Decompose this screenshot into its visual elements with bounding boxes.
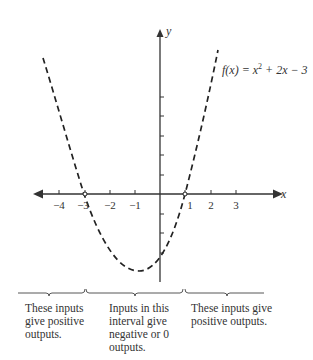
note-middle: Inputs in this interval give negative or… — [109, 302, 169, 354]
x-axis-left-arrow-icon — [33, 190, 43, 199]
note-line: These inputs — [25, 302, 84, 315]
note-line: outputs. — [25, 328, 84, 341]
note-line: These inputs give — [191, 302, 272, 315]
note-line: positive outputs. — [191, 315, 272, 328]
function-label-suffix: + 2x − 3 — [262, 63, 308, 77]
interval-braces — [18, 289, 264, 296]
x-tick-label: −1 — [129, 200, 141, 211]
x-tick-label: −2 — [104, 200, 116, 211]
note-line: give positive — [25, 315, 84, 328]
y-axis-arrow-icon — [157, 29, 164, 37]
function-label: f(x) = x2 + 2x − 3 — [222, 62, 308, 78]
root-marker-right — [183, 192, 187, 196]
x-tick-label: 2 — [208, 200, 214, 211]
parabola-curve — [43, 50, 218, 271]
function-label-prefix: f(x) = x — [222, 63, 258, 77]
note-right: These inputs give positive outputs. — [191, 302, 272, 328]
x-axis-label: x — [281, 187, 286, 202]
x-tick-label: −3 — [77, 200, 89, 211]
note-line: negative or 0 — [109, 328, 169, 341]
x-tick-label: −4 — [53, 200, 65, 211]
y-axis-label: y — [166, 24, 171, 39]
x-tick-label: 1 — [187, 200, 193, 211]
note-line: interval give — [109, 315, 169, 328]
root-marker-left — [83, 192, 87, 196]
note-line: Inputs in this — [109, 302, 169, 315]
note-left: These inputs give positive outputs. — [25, 302, 84, 341]
x-tick-label: 3 — [233, 200, 239, 211]
note-line: outputs. — [109, 341, 169, 354]
